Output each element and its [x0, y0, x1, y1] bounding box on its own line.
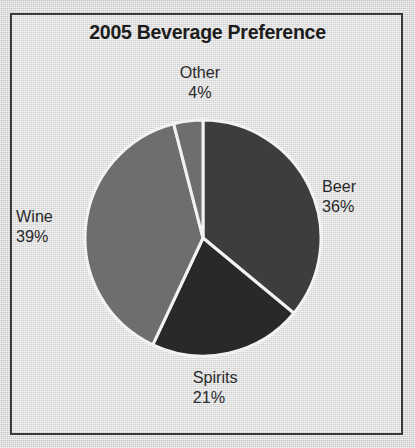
page-title: 2005 Beverage Preference	[26, 20, 390, 44]
pie-label-spirits: Spirits 21%	[193, 368, 298, 408]
pie-label-beer-value: 36%	[322, 197, 398, 217]
pie-label-other-value: 4%	[157, 83, 243, 103]
pie-label-beer: Beer 36%	[322, 177, 398, 217]
pie-label-spirits-name: Spirits	[193, 368, 298, 388]
pie-label-spirits-value: 21%	[193, 388, 298, 408]
pie-svg	[83, 118, 323, 358]
pie-slices	[85, 120, 321, 356]
pie-label-other: Other 4%	[157, 63, 243, 103]
pie-label-wine: Wine 39%	[16, 207, 94, 247]
pie-label-other-name: Other	[157, 63, 243, 83]
pie-chart	[83, 118, 323, 358]
pie-label-wine-name: Wine	[16, 207, 94, 227]
pie-label-beer-name: Beer	[322, 177, 398, 197]
pie-label-wine-value: 39%	[16, 227, 94, 247]
